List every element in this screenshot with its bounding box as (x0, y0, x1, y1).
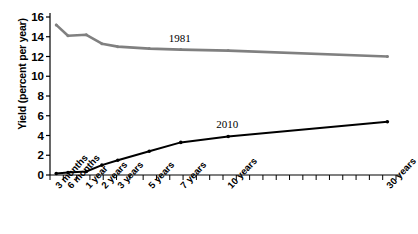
series-1981 (55, 23, 389, 58)
series-label-1981: 1981 (169, 32, 191, 44)
axis-lines (50, 13, 400, 175)
series-label-2010: 2010 (216, 118, 238, 130)
figure-caption (24, 226, 394, 234)
